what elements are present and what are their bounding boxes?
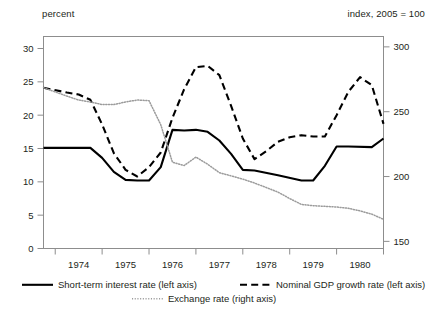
left-axis-caption: percent bbox=[42, 8, 74, 19]
x-tick-label: 1979 bbox=[303, 259, 324, 270]
left-tick-label: 25 bbox=[23, 76, 34, 87]
legend-label: Exchange rate (right axis) bbox=[168, 293, 276, 304]
x-tick-label: 1978 bbox=[256, 259, 277, 270]
right-axis-ticks: 150200250300 bbox=[384, 41, 410, 246]
plot-frame bbox=[44, 37, 384, 249]
chart-figure: percent index, 2005 = 100 051015202530 1… bbox=[0, 0, 433, 320]
left-tick-label: 20 bbox=[23, 110, 34, 121]
right-axis-caption: index, 2005 = 100 bbox=[347, 8, 425, 19]
right-tick-label: 300 bbox=[394, 41, 410, 52]
chart-legend: Short-term interest rate (left axis)Nomi… bbox=[22, 279, 425, 304]
right-tick-label: 200 bbox=[394, 171, 410, 182]
left-axis-ticks: 051015202530 bbox=[23, 43, 44, 254]
right-tick-label: 250 bbox=[394, 106, 410, 117]
x-tick-label: 1975 bbox=[115, 259, 136, 270]
x-axis-ticks: 1974197519761977197819791980 bbox=[55, 249, 383, 270]
legend-label: Nominal GDP growth rate (left axis) bbox=[276, 279, 425, 290]
x-tick-label: 1977 bbox=[209, 259, 230, 270]
left-tick-label: 15 bbox=[23, 143, 34, 154]
left-tick-label: 5 bbox=[28, 210, 33, 221]
legend-label: Short-term interest rate (left axis) bbox=[58, 279, 197, 290]
right-tick-label: 150 bbox=[394, 236, 410, 247]
x-tick-label: 1976 bbox=[162, 259, 183, 270]
left-tick-label: 0 bbox=[28, 243, 33, 254]
series-line-dashed bbox=[44, 66, 384, 177]
line-chart-plot: 051015202530 150200250300 19741975197619… bbox=[0, 0, 433, 320]
left-tick-label: 10 bbox=[23, 176, 34, 187]
x-tick-label: 1974 bbox=[68, 259, 89, 270]
left-tick-label: 30 bbox=[23, 43, 34, 54]
series-line-solid bbox=[44, 130, 384, 181]
series-group bbox=[44, 66, 384, 220]
x-tick-label: 1980 bbox=[349, 259, 370, 270]
